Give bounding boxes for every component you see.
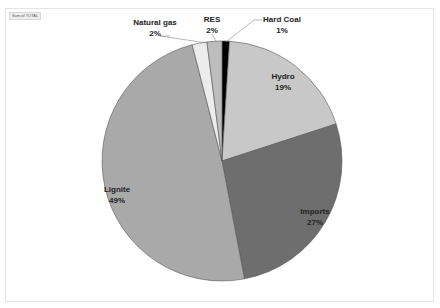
label-hard-coal-name: Hard Coal: [263, 15, 301, 24]
label-lignite-pct: 49%: [109, 196, 125, 205]
label-natural-gas-name: Natural gas: [133, 18, 177, 27]
pie-chart: Natural gas 2% RES 2% Hard Coal 1% Hydro…: [0, 0, 440, 308]
label-natural-gas-pct: 2%: [149, 29, 161, 38]
label-lignite-name: Lignite: [104, 185, 131, 194]
label-res-pct: 2%: [206, 26, 218, 35]
label-imports-pct: 27%: [307, 218, 323, 227]
label-hydro-pct: 19%: [275, 83, 291, 92]
label-imports-name: Imports: [300, 207, 330, 216]
label-hard-coal-pct: 1%: [276, 26, 288, 35]
label-res-name: RES: [204, 15, 221, 24]
label-hydro-name: Hydro: [271, 72, 294, 81]
